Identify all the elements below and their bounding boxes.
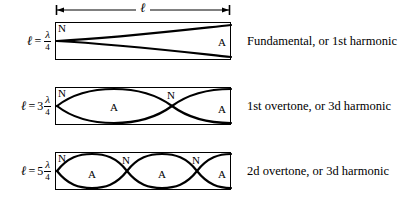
standing-wave-figure: ℓ ℓ = λ 4 N A Fundamental, or [0, 0, 409, 201]
caption-row-1: Fundamental, or 1st harmonic [247, 17, 397, 65]
antinode-label-2-2: A [218, 104, 226, 115]
harmonic-row-2: ℓ = 3 λ 4 N N A A 1st overtone, or 3d ha… [0, 82, 409, 130]
antinode-label-3-2: A [158, 169, 166, 180]
equation-symbol-1: ℓ [27, 33, 32, 49]
harmonic-row-1: ℓ = λ 4 N A Fundamental, or 1st harmonic [0, 17, 409, 65]
equation-denominator-1: 4 [44, 43, 51, 52]
node-label-3-1: N [58, 153, 66, 164]
dimension-label-text: ℓ [136, 0, 149, 15]
equation-row-3: ℓ = 5 λ 4 [4, 147, 54, 195]
equation-symbol-2: ℓ [21, 98, 26, 114]
equation-coefficient-2: 3 [37, 99, 43, 114]
equation-equals-1: = [34, 34, 41, 49]
equation-coefficient-3: 5 [37, 164, 43, 179]
equation-row-1: ℓ = λ 4 [4, 17, 54, 65]
equation-fraction-3: λ 4 [44, 159, 51, 182]
equation-equals-3: = [28, 164, 35, 179]
node-label-2-1: N [58, 88, 66, 99]
antinode-label-2-1: A [110, 102, 118, 113]
equation-numerator-1: λ [44, 29, 51, 40]
caption-row-3: 2d overtone, or 3d harmonic [247, 147, 389, 195]
harmonic-row-3: ℓ = 5 λ 4 N N N A A A 2d overtone, or 3d… [0, 147, 409, 195]
equation-equals-2: = [28, 99, 35, 114]
pipe-svg-1 [55, 17, 233, 65]
pipe-svg-2 [55, 82, 233, 130]
equation-numerator-3: λ [44, 159, 51, 170]
equation-row-2: ℓ = 3 λ 4 [4, 82, 54, 130]
length-dimension: ℓ [55, 2, 231, 18]
node-label-2-2: N [167, 90, 175, 101]
equation-denominator-3: 4 [44, 173, 51, 182]
caption-row-2: 1st overtone, or 3d harmonic [247, 82, 391, 130]
node-label-1-1: N [58, 23, 66, 34]
equation-symbol-3: ℓ [21, 163, 26, 179]
equation-numerator-2: λ [44, 94, 51, 105]
equation-fraction-2: λ 4 [44, 94, 51, 117]
antinode-label-1-1: A [218, 37, 226, 48]
equation-denominator-2: 4 [44, 108, 51, 117]
antinode-label-3-3: A [218, 169, 226, 180]
dimension-label: ℓ [55, 0, 231, 16]
equation-fraction-1: λ 4 [44, 29, 51, 52]
node-label-3-2: N [122, 155, 130, 166]
pipe-svg-3 [55, 147, 233, 195]
pipe-diagram-1: N A [55, 17, 231, 65]
pipe-diagram-2: N N A A [55, 82, 231, 130]
antinode-label-3-1: A [88, 169, 96, 180]
pipe-diagram-3: N N N A A A [55, 147, 231, 195]
node-label-3-3: N [192, 155, 200, 166]
